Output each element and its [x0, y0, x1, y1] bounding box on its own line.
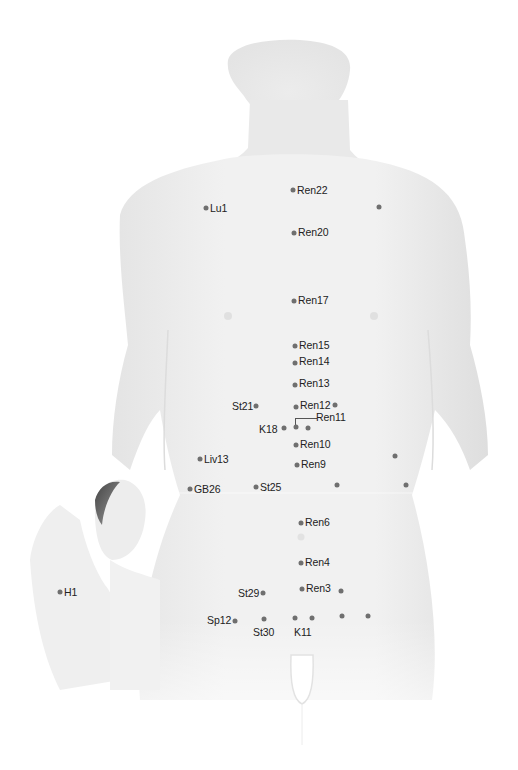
armpit-inset	[30, 480, 160, 690]
acupoint-label-ren3: Ren3	[306, 583, 331, 594]
acupoint-dot-ren17	[292, 299, 297, 304]
acupoint-dot-ren6	[299, 521, 304, 526]
acupoint-dot-k11	[293, 616, 298, 621]
acupoint-label-ren12: Ren12	[300, 400, 330, 411]
acupoint-label-h1: H1	[64, 587, 77, 598]
acupoint-dot-k18-r	[306, 426, 311, 431]
acupoint-label-ren20: Ren20	[298, 227, 328, 238]
acupoint-dot-ren4	[299, 561, 304, 566]
acupoint-dot-st25	[254, 485, 259, 490]
acupoint-diagram: Ren22Lu1Ren20Ren17Ren15Ren14Ren13St21Ren…	[0, 0, 518, 770]
acupoint-label-st21: St21	[232, 401, 253, 412]
acupoint-label-ren4: Ren4	[305, 557, 330, 568]
acupoint-label-ren15: Ren15	[299, 340, 329, 351]
acupoint-label-ren14: Ren14	[299, 356, 329, 367]
acupoint-label-sp12: Sp12	[207, 615, 231, 626]
acupoint-dot-ren20	[292, 231, 297, 236]
acupoint-dot-st21	[254, 404, 259, 409]
acupoint-dot-ren14	[293, 361, 298, 366]
acupoint-dot-ren3	[300, 587, 305, 592]
acupoint-dot-st25-r	[335, 483, 340, 488]
acupoint-label-st25: St25	[260, 482, 281, 493]
acupoint-label-ren22: Ren22	[297, 185, 327, 196]
acupoint-dot-st21-r	[333, 403, 338, 408]
acupoint-dot-lu1-r	[377, 205, 382, 210]
body-silhouette-icon	[0, 0, 518, 770]
acupoint-label-gb26: GB26	[194, 484, 220, 495]
acupoint-dot-lu1	[204, 206, 209, 211]
acupoint-label-st29: St29	[238, 588, 259, 599]
acupoint-label-ren11: Ren11	[316, 412, 346, 423]
acupoint-dot-ren9	[295, 463, 300, 468]
acupoint-label-ren9: Ren9	[301, 459, 326, 470]
acupoint-dot-sp12-r	[366, 614, 371, 619]
acupoint-dot-ren10	[294, 443, 299, 448]
acupoint-label-ren10: Ren10	[300, 439, 330, 450]
acupoint-dot-liv13-r	[393, 454, 398, 459]
acupoint-dot-ren22	[291, 188, 296, 193]
acupoint-label-liv13: Liv13	[204, 454, 229, 465]
acupoint-label-ren17: Ren17	[298, 295, 328, 306]
acupoint-label-lu1: Lu1	[210, 203, 227, 214]
acupoint-dot-ren12	[294, 405, 299, 410]
acupoint-dot-sp12	[233, 619, 238, 624]
acupoint-dot-ren15	[293, 344, 298, 349]
acupoint-dot-st30	[262, 617, 267, 622]
acupoint-dot-st29	[261, 591, 266, 596]
acupoint-dot-gb26	[188, 487, 193, 492]
acupoint-dot-liv13	[198, 457, 203, 462]
acupoint-label-ren13: Ren13	[299, 378, 329, 389]
acupoint-label-ren6: Ren6	[305, 517, 330, 528]
acupoint-dot-st30-r	[340, 614, 345, 619]
acupoint-dot-k18	[282, 426, 287, 431]
acupoint-label-k18: K18	[259, 424, 277, 435]
acupoint-label-st30: St30	[253, 627, 274, 638]
acupoint-dot-gb26-r	[404, 483, 409, 488]
acupoint-label-k11: K11	[294, 627, 312, 638]
acupoint-dot-h1	[58, 590, 63, 595]
acupoint-dot-ren11	[294, 425, 299, 430]
acupoint-dot-st29-r	[339, 589, 344, 594]
acupoint-dot-ren13	[293, 383, 298, 388]
acupoint-dot-k11-r	[310, 616, 315, 621]
